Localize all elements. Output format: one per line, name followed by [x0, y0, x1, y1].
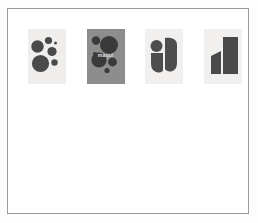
- page-root: maqul: [0, 0, 258, 223]
- gallery-item-circles-light[interactable]: [28, 29, 66, 84]
- gallery-item-circles-gray[interactable]: maqul: [87, 29, 125, 84]
- gallery-item-angular[interactable]: [204, 29, 242, 84]
- circles-gray-graphic: [87, 29, 125, 84]
- image-gallery: maqul: [28, 29, 242, 85]
- blank-canvas-area: [16, 93, 256, 221]
- parallelograms-graphic: [204, 29, 242, 84]
- circles-light-graphic: [28, 29, 66, 84]
- four-petal-graphic: [145, 29, 183, 84]
- document-sheet: maqul: [7, 8, 249, 214]
- gallery-item-clover[interactable]: [145, 29, 183, 84]
